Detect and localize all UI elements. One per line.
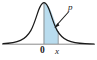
shaded-probability-region	[44, 3, 58, 44]
probability-label-p: p	[68, 3, 73, 12]
normal-curve-plot	[0, 0, 97, 60]
normal-distribution-figure: 0 x p	[0, 0, 97, 60]
axis-tick-label-zero: 0	[40, 46, 45, 56]
axis-tick-label-x: x	[55, 47, 59, 56]
